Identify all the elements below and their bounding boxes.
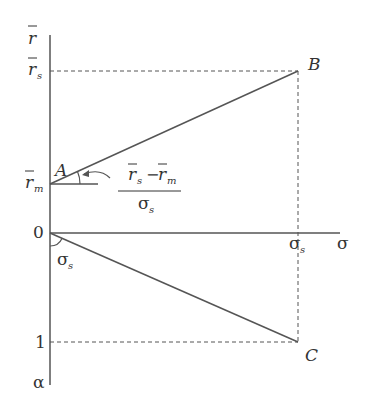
origin-angle-sub: s [68,260,73,271]
arrow-head-icon [82,170,89,177]
alpha-axis-label: α [33,372,45,392]
fraction-num-rs: r [128,164,137,184]
rm-tick-sub: m [34,183,43,194]
sigma-axis-label: σ [337,233,349,253]
one-tick-label: 1 [35,332,46,352]
line-a-b [50,71,298,184]
vertical-axis-label: r [28,28,37,48]
fraction-num-rm: r [158,164,167,184]
angle-arc-a [78,172,81,185]
origin-label: 0 [33,222,44,242]
fraction-denominator-sub: s [149,204,154,215]
diagram-canvas: r r s r m A r s − r m σ s 0 σ s σ s σ B … [0,0,374,419]
line-origin-c [50,233,298,342]
fraction-num-rm-sub: m [167,175,176,186]
rm-tick-label: r [25,172,34,192]
rs-tick-sub: s [37,70,42,81]
point-b-label: B [307,54,321,74]
point-a-label: A [53,160,67,180]
rs-tick-label: r [28,59,37,79]
sigma-s-tick-sub: s [300,244,305,255]
fraction-num-rs-sub: s [137,175,142,186]
angle-arc-origin [50,239,62,247]
point-c-label: C [305,345,318,365]
